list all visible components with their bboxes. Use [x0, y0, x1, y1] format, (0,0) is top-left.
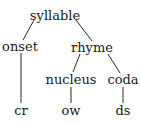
- leaf-ds: ds: [116, 103, 131, 118]
- syllable-tree-diagram: syllable onset rhyme nucleus coda cr ow …: [0, 0, 141, 125]
- node-coda: coda: [107, 72, 138, 87]
- leaf-ow: ow: [62, 103, 81, 118]
- edge-syllable-rhyme: [76, 20, 92, 41]
- leaf-cr: cr: [14, 103, 28, 118]
- node-syllable: syllable: [30, 8, 81, 23]
- node-rhyme: rhyme: [71, 40, 113, 55]
- edge-rhyme-nucleus: [73, 54, 80, 72]
- node-onset: onset: [2, 39, 39, 54]
- edge-rhyme-coda: [108, 54, 120, 73]
- edge-syllable-onset: [23, 20, 34, 40]
- node-nucleus: nucleus: [46, 72, 97, 87]
